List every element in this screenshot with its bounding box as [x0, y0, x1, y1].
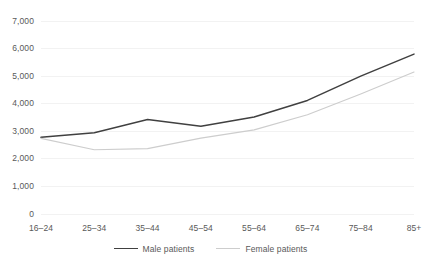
legend-label-male: Male patients	[143, 245, 195, 254]
x-tick-label: 85+	[384, 224, 426, 233]
y-tick-label: 5,000	[0, 72, 34, 81]
y-tick-label: 4,000	[0, 99, 34, 108]
y-tick-label: 0	[0, 210, 34, 219]
x-tick-label: 45–54	[171, 224, 231, 233]
legend-item-male: Male patients	[114, 245, 195, 254]
x-tick-label: 75–84	[331, 224, 391, 233]
y-tick-label: 6,000	[0, 44, 34, 53]
x-tick-label: 55–64	[224, 224, 284, 233]
x-tick-label: 16–24	[11, 224, 71, 233]
y-tick-label: 3,000	[0, 127, 34, 136]
y-tick-label: 7,000	[0, 17, 34, 26]
legend-swatch-male	[114, 248, 138, 249]
y-tick-label: 1,000	[0, 182, 34, 191]
x-tick-label: 25–34	[64, 224, 124, 233]
legend-label-female: Female patients	[245, 245, 307, 254]
legend-item-female: Female patients	[216, 245, 307, 254]
chart-legend: Male patients Female patients	[0, 245, 421, 254]
series-line-female-patients	[41, 72, 414, 150]
x-tick-label: 65–74	[277, 224, 337, 233]
legend-swatch-female	[216, 248, 240, 249]
y-tick-label: 2,000	[0, 154, 34, 163]
x-tick-label: 35–44	[118, 224, 178, 233]
